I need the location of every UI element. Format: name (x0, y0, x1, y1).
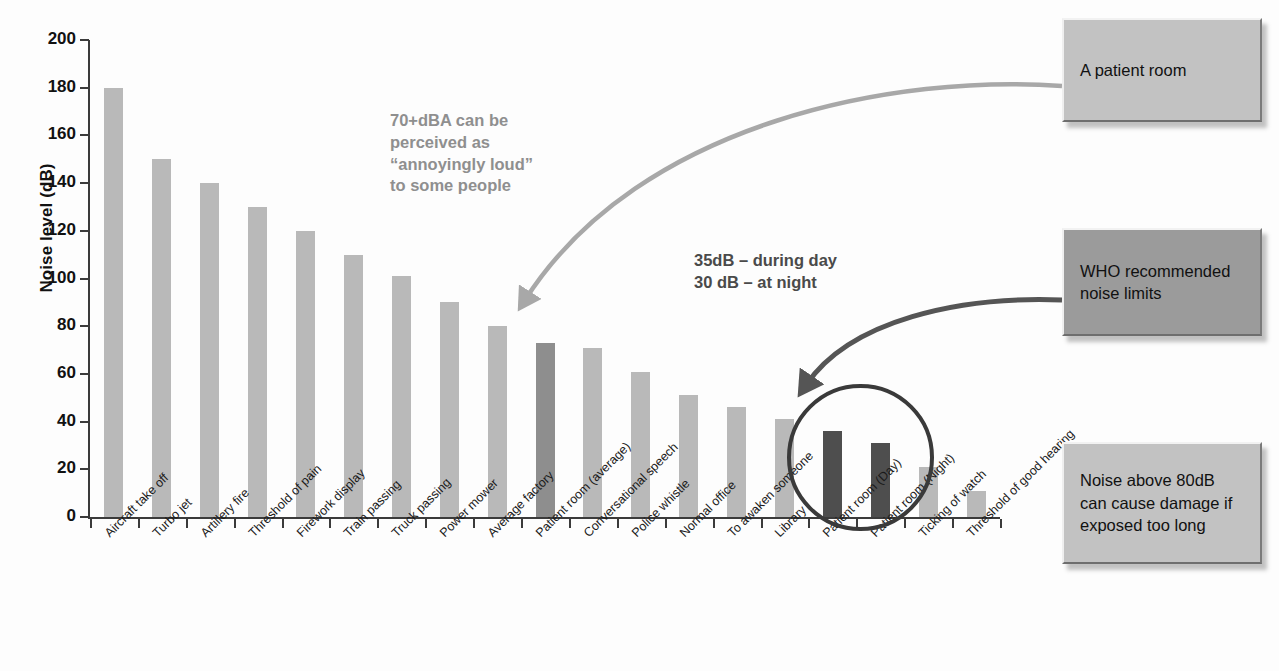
x-axis-tick-mark (617, 519, 619, 528)
bar (104, 88, 123, 517)
x-axis-tick-mark (425, 519, 427, 528)
annotation-annoyingly-loud: 70+dBA can be perceived as “annoyingly l… (390, 110, 533, 197)
x-axis-tick-mark (569, 519, 571, 528)
x-axis-tick-mark (904, 519, 906, 528)
bar (727, 407, 746, 517)
x-axis-tick-mark (377, 519, 379, 528)
x-axis-tick-mark (329, 519, 331, 528)
x-axis-tick-mark (186, 519, 188, 528)
callout-who-recommended-text: WHO recommended noise limits (1064, 260, 1246, 305)
bar (679, 395, 698, 517)
x-axis-tick-mark (90, 519, 92, 528)
x-axis-tick-mark (761, 519, 763, 528)
callout-patient-room[interactable]: A patient room (1062, 18, 1262, 122)
highlight-circle (787, 384, 934, 531)
x-axis-tick-mark (808, 519, 810, 528)
x-axis-tick-mark (1000, 519, 1002, 528)
callout-noise-above-80db[interactable]: Noise above 80dB can cause damage if exp… (1062, 442, 1262, 564)
noise-level-chart: Noise level (dB) 20018016014012010080604… (0, 0, 1279, 671)
x-axis-tick-mark (234, 519, 236, 528)
bar (152, 159, 171, 517)
bar (200, 183, 219, 517)
x-axis-tick-mark (473, 519, 475, 528)
x-axis-tick-mark (713, 519, 715, 528)
callout-patient-room-text: A patient room (1064, 59, 1202, 81)
annotation-who-limit-values: 35dB – during day 30 dB – at night (694, 250, 837, 294)
callout-who-recommended[interactable]: WHO recommended noise limits (1062, 228, 1262, 336)
x-axis-tick-mark (521, 519, 523, 528)
x-axis-tick-mark (952, 519, 954, 528)
callout-noise-above-80db-text: Noise above 80dB can cause damage if exp… (1064, 469, 1248, 536)
x-axis-tick-mark (665, 519, 667, 528)
x-axis-tick-mark (138, 519, 140, 528)
x-axis-tick-mark (282, 519, 284, 528)
bar (248, 207, 267, 517)
